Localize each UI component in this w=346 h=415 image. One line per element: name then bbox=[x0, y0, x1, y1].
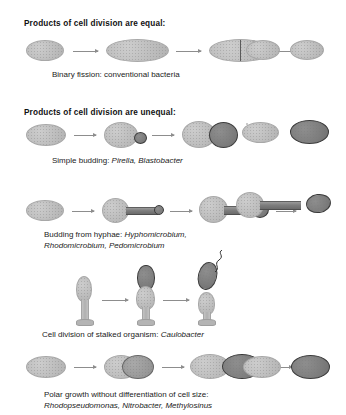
polar-cell-stage2-new bbox=[122, 355, 154, 379]
hypha-tube-stage4 bbox=[260, 201, 301, 210]
caption-simple-budding: Simple budding: Pirella, Blastobacter bbox=[52, 156, 183, 167]
caption-polar-line1: Polar growth without differentiation of … bbox=[44, 390, 208, 399]
holdfast-stage1 bbox=[76, 319, 94, 326]
caption-polar-growth: Polar growth without differentiation of … bbox=[44, 390, 212, 411]
polar-product-dark bbox=[291, 355, 330, 379]
polar-cell-stage1 bbox=[26, 356, 66, 378]
holdfast-stage3 bbox=[198, 319, 216, 326]
hypha-arrow-1 bbox=[72, 211, 94, 212]
bud-arrow-2 bbox=[152, 135, 174, 136]
caption-stalked-prefix: Cell division of stalked organism: bbox=[42, 330, 161, 339]
caption-stalked-species: Caulobacter bbox=[161, 330, 204, 339]
polar-arrow-2 bbox=[162, 367, 184, 368]
caption-hyphal-budding: Budding from hyphae: Hyphomicrobium, Rho… bbox=[44, 230, 187, 251]
caption-binary-text: Binary fission: conventional bacteria bbox=[52, 70, 180, 79]
hypha-arrow-3 bbox=[276, 211, 296, 212]
caption-budding-species: Pirella, Blastobacter bbox=[112, 156, 183, 165]
caption-hyphae-prefix: Budding from hyphae: bbox=[44, 230, 125, 239]
bud-product-light bbox=[242, 122, 279, 143]
bud-arrow-1 bbox=[74, 135, 96, 136]
heading-equal: Products of cell division are equal: bbox=[24, 19, 166, 28]
cell-division-figure: Products of cell division are equal: Bin… bbox=[0, 0, 346, 415]
polar-product-light bbox=[243, 356, 281, 378]
hypha-bud-stage2 bbox=[154, 205, 164, 215]
caption-hyphae-species1: Hyphomicrobium, bbox=[125, 230, 187, 239]
hypha-cell-stage2 bbox=[102, 198, 129, 223]
flagellum-icon bbox=[211, 250, 237, 274]
bud-product-dark bbox=[290, 120, 329, 144]
caption-hyphae-species2: Rhodomicrobium, Pedomicrobium bbox=[44, 241, 165, 250]
row-hyphal-budding bbox=[0, 192, 346, 232]
hypha-arrow-2 bbox=[170, 211, 192, 212]
cell-stage4-daughter-b bbox=[290, 40, 324, 60]
section-unequal-division: Products of cell division are unequal: S… bbox=[0, 104, 346, 179]
bud-cell-stage2-bud bbox=[134, 132, 147, 144]
polar-arrow-1 bbox=[74, 367, 96, 368]
bud-cell-stage2-mother bbox=[104, 122, 138, 148]
caption-stalked-division: Cell division of stalked organism: Caulo… bbox=[42, 330, 204, 341]
caption-budding-prefix: Simple budding: bbox=[52, 156, 112, 165]
caption-binary-fission: Binary fission: conventional bacteria bbox=[52, 70, 180, 81]
caption-polar-species: Rhodopseudomonas, Nitrobacter, Methylosi… bbox=[44, 401, 212, 410]
stalk-arrow-2 bbox=[163, 300, 189, 301]
stalk-arrow-1 bbox=[102, 300, 128, 301]
bud-cell-stage3-bud bbox=[209, 122, 238, 148]
holdfast-stage2 bbox=[137, 319, 155, 326]
heading-unequal: Products of cell division are unequal: bbox=[24, 108, 176, 117]
hypha-cell-stage1 bbox=[26, 200, 64, 221]
bud-cell-stage1 bbox=[26, 124, 66, 146]
cell-stage4-daughter-a bbox=[246, 40, 280, 60]
stalk-cell-stage1-body bbox=[76, 276, 92, 302]
section-stalked-division: Cell division of stalked organism: Caulo… bbox=[0, 262, 346, 340]
section-polar-growth: Polar growth without differentiation of … bbox=[0, 348, 346, 408]
